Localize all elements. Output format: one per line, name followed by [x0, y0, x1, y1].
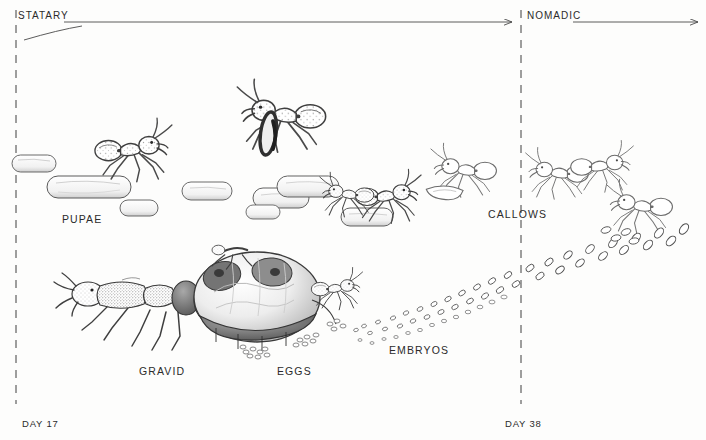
day-label-end: DAY 38	[505, 419, 542, 429]
ant-cycle-illustration	[0, 0, 706, 440]
pupa	[47, 176, 131, 198]
day-label-start: DAY 17	[22, 419, 59, 429]
figure-canvas: STATARY NOMADIC PUPAE CALLOWS GRAVID EGG…	[0, 0, 706, 440]
caption-eggs: EGGS	[277, 366, 312, 377]
caption-pupae: PUPAE	[62, 214, 102, 225]
pupa	[182, 182, 232, 200]
phase-label-statary: STATARY	[18, 11, 69, 21]
phase-label-nomadic: NOMADIC	[527, 11, 581, 21]
caption-callows: CALLOWS	[488, 209, 547, 220]
pupa	[246, 205, 280, 219]
pupa	[12, 155, 56, 172]
caption-embryos: EMBRYOS	[389, 345, 449, 356]
caption-gravid: GRAVID	[139, 366, 185, 377]
pupa	[120, 200, 158, 216]
